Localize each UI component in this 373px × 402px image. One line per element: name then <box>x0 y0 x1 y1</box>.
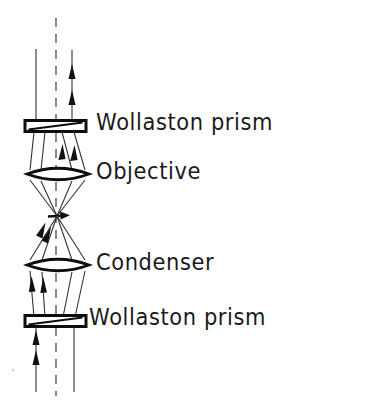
ray-cone-objective-to-focus <box>30 180 85 216</box>
label-objective: Objective <box>96 160 201 184</box>
ray-arrow-up <box>70 145 77 161</box>
ray-arrow-up <box>33 350 40 365</box>
ray-bundle-condenser-to-bottom-prism <box>29 271 85 317</box>
ray-arrow-up <box>29 276 36 292</box>
ray-arrow-up <box>69 90 76 105</box>
wollaston-prism-top <box>25 121 86 132</box>
scan-speck <box>12 369 14 371</box>
label-wollaston-prism-bottom: Wollaston prism <box>89 306 266 330</box>
optical-ray-diagram-svg <box>0 0 373 402</box>
label-condenser: Condenser <box>96 251 214 275</box>
wollaston-prism-bottom <box>25 316 86 327</box>
ray-cone-focus-to-condenser <box>30 216 85 260</box>
ray-bundle-prism-to-objective <box>30 132 85 170</box>
ray-bundle-below-bottom-prism <box>33 327 75 392</box>
ray-arrow-up <box>33 330 40 345</box>
ray-arrow-up <box>58 144 65 160</box>
ray-arrow-up <box>40 277 47 293</box>
focus-arrow-head <box>60 212 70 220</box>
optical-diagram: Wollaston prism Objective Condenser Woll… <box>0 0 373 402</box>
label-wollaston-prism-top: Wollaston prism <box>96 111 273 135</box>
objective-lens <box>27 168 89 180</box>
condenser-lens <box>27 259 89 271</box>
ray-arrow-up <box>69 64 76 79</box>
